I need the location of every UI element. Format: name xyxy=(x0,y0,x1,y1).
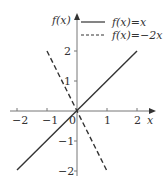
origin-label: 0 xyxy=(69,114,76,127)
y-tick-label: 2 xyxy=(64,45,71,58)
x-tick-label: 2 xyxy=(134,114,141,127)
x-tick-label: 1 xyxy=(104,114,111,127)
y-axis-label: f(x) xyxy=(51,14,71,27)
y-tick-label: −2 xyxy=(58,165,74,178)
y-axis-arrow-icon xyxy=(74,13,80,20)
y-tick-label: −1 xyxy=(58,135,74,148)
legend-dashed-label: f(x)=−2x xyxy=(111,29,163,42)
function-plot: −2 −1 0 1 2 x 2 1 −1 −2 f(x) f(x)=x f(x)… xyxy=(0,0,165,193)
x-axis-label: x xyxy=(147,114,154,127)
x-tick-label: −1 xyxy=(42,114,58,127)
x-tick-label: −2 xyxy=(12,114,28,127)
legend-solid-label: f(x)=x xyxy=(111,16,147,29)
y-tick-label: 1 xyxy=(64,75,71,88)
